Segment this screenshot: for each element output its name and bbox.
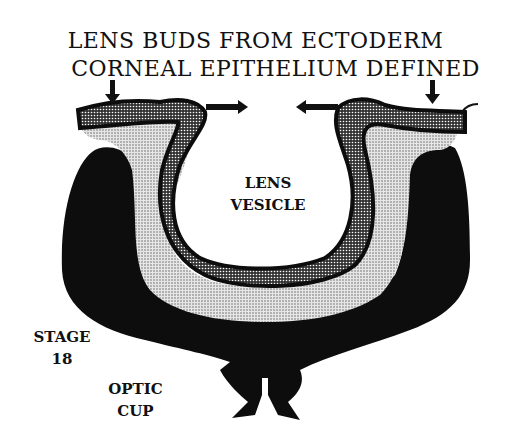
optic-cup-label-line2: CUP — [98, 400, 173, 422]
stage-label-line2: 18 — [22, 348, 102, 370]
lens-vesicle-label: LENS VESICLE — [228, 172, 308, 216]
stage-label: STAGE 18 — [22, 326, 102, 370]
right-arrow — [206, 100, 248, 114]
optic-cup-label-line1: OPTIC — [98, 378, 173, 400]
optic-cup-label: OPTIC CUP — [98, 378, 173, 422]
stage-label-line1: STAGE — [22, 326, 102, 348]
lens-development-diagram — [0, 0, 531, 446]
lens-vesicle-label-line1: LENS — [228, 172, 308, 194]
down-arrow-right — [425, 80, 440, 104]
left-arrow — [296, 100, 338, 114]
lens-vesicle-label-line2: VESICLE — [228, 194, 308, 216]
